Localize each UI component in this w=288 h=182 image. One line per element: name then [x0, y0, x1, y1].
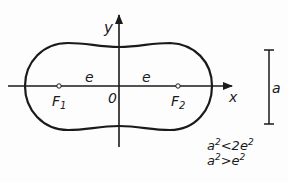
origin-label: 0	[108, 90, 117, 106]
scale-bar-label: a	[272, 80, 281, 96]
focus-f1-point	[57, 84, 61, 88]
focus-f2-label: F2	[171, 93, 185, 111]
distance-label-right: e	[142, 69, 151, 85]
focus-f2-point	[176, 84, 180, 88]
distance-label-left: e	[85, 69, 94, 85]
x-axis-label: x	[228, 89, 238, 105]
condition-2: a2>e2	[207, 152, 246, 168]
cassini-oval-diagram: y x 0 e e F1 F2 a a2<2e2 a2>e2	[0, 0, 288, 182]
focus-f1-label: F1	[52, 93, 66, 111]
condition-1: a2<2e2	[207, 137, 254, 153]
y-axis-label: y	[103, 19, 114, 37]
